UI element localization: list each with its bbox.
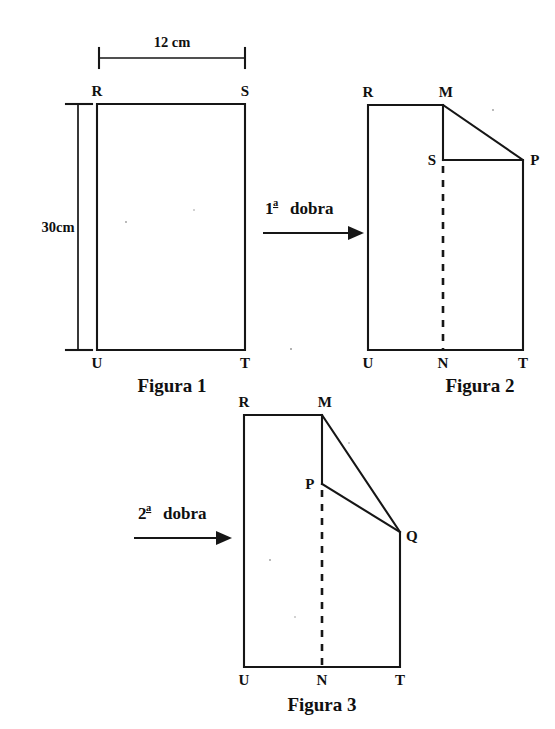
figure-1-caption: Figura 1 xyxy=(137,375,206,396)
figure-3-vertex-Q: Q xyxy=(406,528,418,544)
scan-speck xyxy=(294,616,296,618)
height-dimension-label: 30cm xyxy=(41,219,74,235)
figure-3-caption: Figura 3 xyxy=(287,694,356,715)
figure-3-edge-P-Q xyxy=(322,484,400,532)
figure-3-vertex-N: N xyxy=(316,672,327,688)
figure-1-rectangle xyxy=(97,104,245,350)
figure-3-vertex-R: R xyxy=(238,394,249,410)
height-dimension-line: 30cm xyxy=(41,104,92,350)
width-dimension-line: 12 cm xyxy=(99,34,245,68)
second-fold-arrow-head xyxy=(216,531,232,545)
scan-speck xyxy=(492,109,494,111)
figure-2-outline xyxy=(368,105,523,350)
first-fold-text: dobra xyxy=(290,199,334,218)
figure-2-caption: Figura 2 xyxy=(445,375,514,396)
figure-1-vertex-R: R xyxy=(91,83,102,99)
figure-2-vertex-R: R xyxy=(362,84,373,100)
second-fold-text: dobra xyxy=(163,504,207,523)
first-fold-arrow-head xyxy=(348,226,364,240)
figure-2-vertex-P: P xyxy=(530,152,539,168)
scan-speck xyxy=(125,221,127,223)
scan-speck xyxy=(348,442,350,444)
figure-canvas: 12 cm 30cm R S U T Figura 1 1 xyxy=(0,0,555,729)
figure-3-vertex-M: M xyxy=(318,394,332,410)
figure-3-group: R M P Q U N T Figura 3 xyxy=(238,394,418,715)
figure-3-vertex-T: T xyxy=(395,672,405,688)
figure-2-vertex-S: S xyxy=(428,152,437,168)
figure-2-vertex-U: U xyxy=(362,355,373,371)
first-fold-ordinal-suffix: a xyxy=(273,197,279,208)
scan-speck xyxy=(290,348,292,350)
figure-2-vertex-M: M xyxy=(439,84,453,100)
figure-1-vertex-S: S xyxy=(241,83,250,99)
figure-3-vertex-P: P xyxy=(305,476,314,492)
first-fold-arrow-group: 1 a dobra xyxy=(263,197,364,240)
figure-2-vertex-T: T xyxy=(518,355,528,371)
width-dimension-label: 12 cm xyxy=(154,34,191,50)
figure-2-vertex-N: N xyxy=(437,355,448,371)
scan-speck xyxy=(269,559,271,561)
second-fold-arrow-group: 2 a dobra xyxy=(134,502,232,545)
figure-3-vertex-U: U xyxy=(238,672,249,688)
figure-1-vertex-U: U xyxy=(91,355,102,371)
second-fold-ordinal-suffix: a xyxy=(146,502,152,513)
figure-2-group: R M S P U N T Figura 2 xyxy=(290,84,540,396)
paper-folding-diagram: 12 cm 30cm R S U T Figura 1 1 xyxy=(0,0,555,729)
figure-1-group: 12 cm 30cm R S U T Figura 1 xyxy=(41,34,250,396)
scan-speck xyxy=(193,209,195,211)
figure-1-vertex-T: T xyxy=(240,355,250,371)
